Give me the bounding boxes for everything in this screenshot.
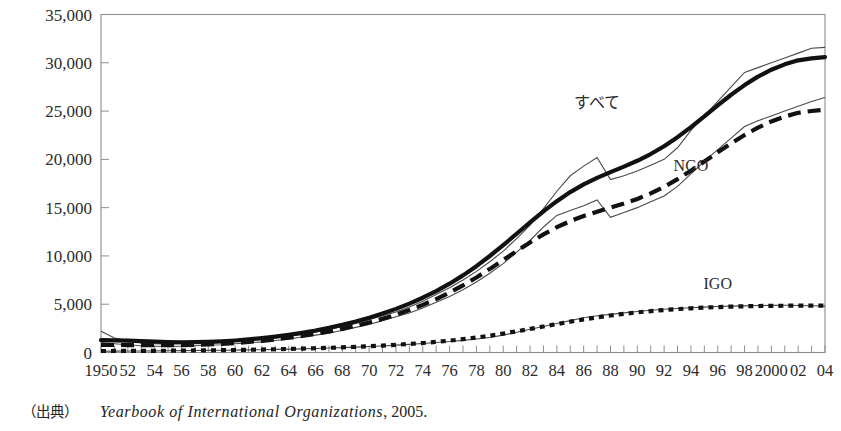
x-tick-label: 80 — [495, 361, 512, 380]
figure-container: 05,00010,00015,00020,00025,00030,00035,0… — [0, 0, 841, 431]
x-tick-label: 72 — [388, 361, 405, 380]
x-tick-label: 90 — [629, 361, 646, 380]
x-tick-label: 66 — [307, 361, 324, 380]
series-actual-line — [101, 98, 825, 347]
x-tick-label: 58 — [200, 361, 217, 380]
x-tick-label: 60 — [227, 361, 244, 380]
x-tick-label: 96 — [709, 361, 726, 380]
x-tick-label: 1950 — [85, 361, 118, 380]
source-year: , 2005. — [383, 403, 427, 420]
series-annotation-NGO: NGO — [674, 157, 709, 174]
x-tick-label: 56 — [173, 361, 190, 380]
x-tick-label: 68 — [334, 361, 351, 380]
x-tick-label: 02 — [790, 361, 807, 380]
x-tick-label: 64 — [280, 361, 297, 380]
x-tick-label: 62 — [254, 361, 271, 380]
x-axis-tick-marks — [101, 346, 825, 353]
x-tick-label: 70 — [361, 361, 378, 380]
y-tick-label: 35,000 — [45, 6, 92, 25]
x-tick-label: 98 — [736, 361, 753, 380]
y-tick-label: 10,000 — [45, 247, 92, 266]
series-annotation-すべて: すべて — [574, 93, 620, 112]
y-tick-label: 15,000 — [45, 199, 92, 218]
y-tick-label: 5,000 — [54, 295, 92, 314]
y-tick-label: 25,000 — [45, 102, 92, 121]
series-trend-line — [101, 110, 825, 346]
series-すべて — [101, 47, 825, 344]
y-tick-label: 30,000 — [45, 54, 92, 73]
x-tick-label: 78 — [468, 361, 485, 380]
plot-frame-group — [101, 15, 825, 353]
x-axis-tick-labels: 1950525456586062646668707274767880828486… — [85, 361, 834, 380]
x-tick-label: 92 — [656, 361, 673, 380]
x-tick-label: 94 — [683, 361, 700, 380]
x-tick-label: 04 — [817, 361, 834, 380]
y-axis-tick-labels: 05,00010,00015,00020,00025,00030,00035,0… — [45, 6, 92, 363]
x-tick-label: 84 — [549, 361, 566, 380]
x-tick-label: 76 — [441, 361, 458, 380]
y-axis-tick-marks — [101, 15, 109, 353]
source-title: Yearbook of International Organizations — [100, 403, 383, 420]
international-organizations-growth-chart: 05,00010,00015,00020,00025,00030,00035,0… — [0, 0, 841, 431]
source-label: （出典） — [22, 404, 78, 420]
x-tick-label: 82 — [522, 361, 539, 380]
plot-frame — [101, 15, 825, 353]
x-tick-label: 88 — [602, 361, 619, 380]
x-tick-label: 86 — [575, 361, 592, 380]
x-tick-label: 54 — [146, 361, 163, 380]
series-trend-line — [101, 57, 825, 342]
x-tick-label: 74 — [415, 361, 432, 380]
data-series-layer — [101, 47, 825, 351]
series-NGO — [101, 98, 825, 347]
series-actual-line — [101, 47, 825, 344]
x-tick-label: 52 — [120, 361, 137, 380]
source-note: （出典） Yearbook of International Organizat… — [22, 400, 822, 421]
series-annotation-IGO: IGO — [704, 275, 732, 292]
x-tick-label: 2000 — [755, 361, 788, 380]
y-tick-label: 20,000 — [45, 150, 92, 169]
